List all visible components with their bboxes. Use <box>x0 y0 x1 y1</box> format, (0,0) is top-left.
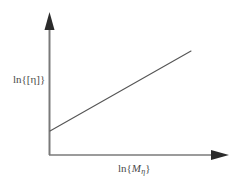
x-axis-label-prefix: ln{ <box>118 162 132 174</box>
x-axis-label-suffix: } <box>145 162 150 174</box>
figure-container: ln{[η]} ln{Mη} <box>0 0 238 184</box>
x-axis-label-variable: M <box>132 162 141 174</box>
x-axis-arrowhead-icon <box>211 150 229 160</box>
y-axis-arrowhead-icon <box>45 12 55 30</box>
x-axis-label: ln{Mη} <box>118 163 151 176</box>
data-line-mark-houwink <box>50 51 191 131</box>
plot-canvas <box>0 0 238 184</box>
y-axis-label: ln{[η]} <box>13 74 45 85</box>
